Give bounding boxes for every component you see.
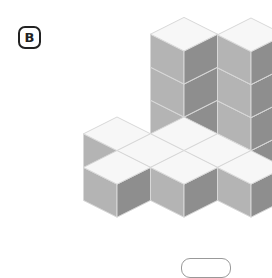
answer-box[interactable] xyxy=(181,258,231,278)
option-label: B xyxy=(25,30,35,45)
option-label-badge: B xyxy=(18,26,41,49)
